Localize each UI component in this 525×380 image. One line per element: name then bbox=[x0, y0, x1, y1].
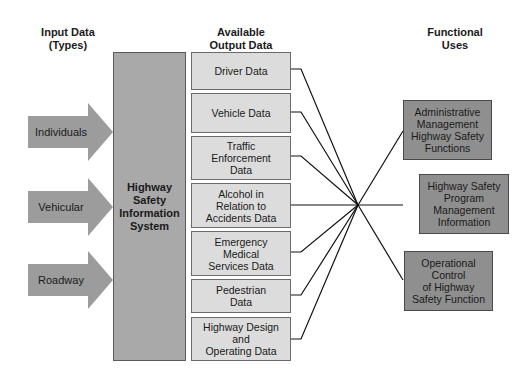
functional-program-management-information: Highway Safety Program Management Inform… bbox=[419, 174, 509, 234]
output-ems-data: Emergency Medical Services Data bbox=[191, 231, 291, 276]
output-traffic-enforcement-data: Traffic Enforcement Data bbox=[191, 136, 291, 180]
output-vehicle-data: Vehicle Data bbox=[191, 93, 291, 133]
output-pedestrian-data: Pedestrian Data bbox=[191, 279, 291, 313]
output-highway-design-data: Highway Design and Operating Data bbox=[191, 317, 291, 361]
functional-administrative-management: Administrative Management Highway Safety… bbox=[403, 100, 492, 160]
output-alcohol-accidents-data: Alcohol in Relation to Accidents Data bbox=[191, 183, 291, 228]
output-driver-data: Driver Data bbox=[191, 52, 291, 90]
functional-operational-control: Operational Control of Highway Safety Fu… bbox=[404, 251, 493, 311]
